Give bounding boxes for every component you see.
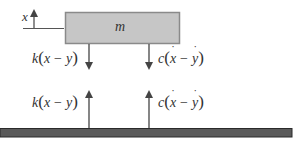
damper-force-label-bottom: c(x − y) (158, 93, 204, 110)
mass-label: m (115, 20, 125, 34)
ground (0, 129, 292, 138)
free-body-diagram: m x k(x − y) c(x − y) k(x − y) c(x − y) (0, 0, 307, 144)
spring-force-label-bottom: k(x − y) (32, 93, 78, 110)
x-coordinate-label: x (22, 10, 28, 23)
damper-force-label-top: c(x − y) (158, 49, 204, 66)
spring-force-label-top: k(x − y) (32, 49, 78, 66)
diagram-canvas (0, 0, 307, 144)
